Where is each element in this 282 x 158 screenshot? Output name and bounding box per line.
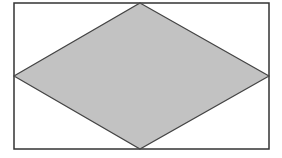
diagram-canvas [0, 0, 282, 158]
